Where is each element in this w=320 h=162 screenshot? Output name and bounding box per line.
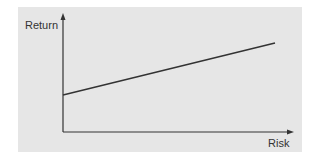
x-axis-label: Risk bbox=[268, 137, 289, 149]
y-axis-arrow-icon bbox=[61, 13, 66, 20]
risk-return-line bbox=[63, 43, 275, 95]
y-axis-label: Return bbox=[25, 19, 58, 31]
x-axis bbox=[63, 130, 294, 135]
x-axis-arrow-icon bbox=[287, 130, 294, 135]
y-axis bbox=[61, 13, 66, 132]
